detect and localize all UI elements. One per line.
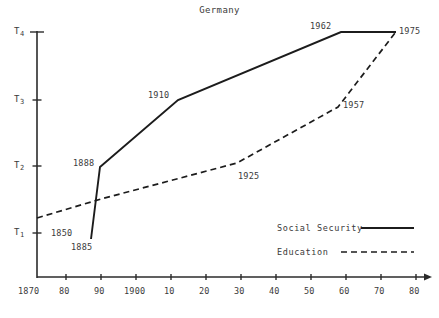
x-tick-label-90: 90 (94, 286, 105, 296)
y-tick-t4-subscript: 4 (20, 30, 24, 38)
x-tick-label-20: 20 (199, 286, 210, 296)
y-tick-t1-subscript: 1 (20, 231, 24, 239)
x-axis (37, 273, 432, 280)
x-tick-label-80a: 80 (59, 286, 70, 296)
series-education-line (37, 33, 395, 218)
y-axis (30, 31, 44, 278)
chart-page: Germany (0, 0, 439, 318)
point-label-1975: 1975 (399, 26, 420, 36)
y-tick-t2-subscript: 2 (20, 164, 24, 172)
point-label-1962: 1962 (310, 21, 331, 31)
y-tick-t3-letter: T (14, 94, 19, 104)
point-label-1957: 1957 (343, 100, 364, 110)
series-social-security-line (91, 32, 396, 239)
point-label-1850: 1850 (51, 228, 72, 238)
legend-item-education: Education (277, 247, 328, 257)
x-tick-label-1870: 1870 (18, 286, 39, 296)
y-tick-label-t4: T4 (14, 26, 24, 36)
x-tick-label-60: 60 (339, 286, 350, 296)
legend-item-social-security: Social Security (277, 223, 363, 233)
x-tick-label-10: 10 (164, 286, 175, 296)
y-tick-label-t1: T1 (14, 227, 24, 237)
point-label-1910: 1910 (148, 90, 169, 100)
x-tick-label-50: 50 (304, 286, 315, 296)
x-tick-label-30: 30 (234, 286, 245, 296)
y-tick-t3-subscript: 3 (20, 98, 24, 106)
x-tick-label-80b: 80 (409, 286, 420, 296)
chart-plot-area (0, 0, 439, 318)
point-label-1925: 1925 (238, 171, 259, 181)
x-tick-label-70: 70 (374, 286, 385, 296)
y-tick-label-t2: T2 (14, 160, 24, 170)
x-tick-label-1900: 1900 (124, 286, 145, 296)
point-label-1888: 1888 (73, 158, 94, 168)
y-tick-t1-letter: T (14, 227, 19, 237)
y-tick-t2-letter: T (14, 160, 19, 170)
point-label-1885: 1885 (71, 242, 92, 252)
y-tick-t4-letter: T (14, 26, 19, 36)
x-tick-label-40: 40 (269, 286, 280, 296)
y-tick-label-t3: T3 (14, 94, 24, 104)
